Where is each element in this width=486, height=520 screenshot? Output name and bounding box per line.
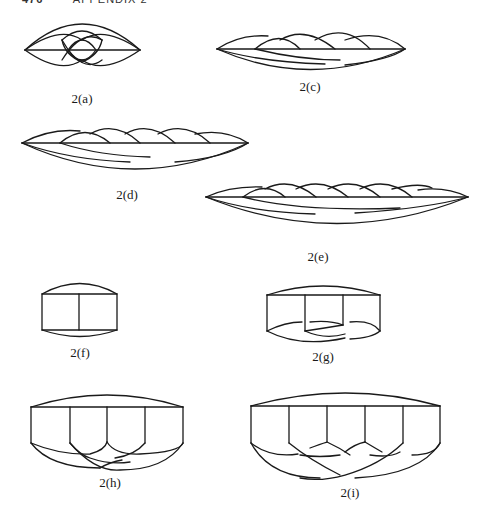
caption-2f: 2(f) <box>70 345 90 361</box>
caption-2d: 2(d) <box>116 187 138 203</box>
diagram-2e <box>206 184 468 223</box>
caption-2g: 2(g) <box>312 349 334 365</box>
caption-2e: 2(e) <box>308 249 329 265</box>
caption-2i: 2(i) <box>341 485 360 501</box>
caption-2h: 2(h) <box>99 475 121 491</box>
caption-2a: 2(a) <box>72 91 93 107</box>
caption-2c: 2(c) <box>300 79 321 95</box>
diagram-2h <box>31 395 183 470</box>
diagram-2a <box>25 24 140 66</box>
diagram-2i <box>251 393 440 479</box>
diagram-2g <box>267 286 380 342</box>
diagram-2f <box>42 284 117 337</box>
figure-canvas <box>0 0 486 520</box>
diagram-2c <box>217 33 405 70</box>
diagram-2d <box>22 129 248 169</box>
